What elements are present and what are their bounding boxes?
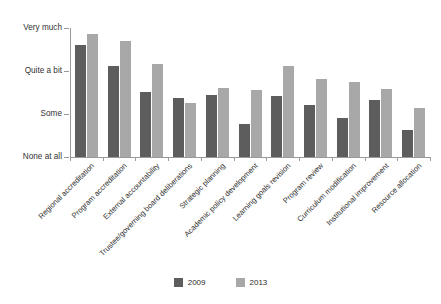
bar-2013-8 [349, 82, 360, 157]
x-axis-tick-mark [103, 157, 104, 161]
legend-label: 2009 [188, 278, 206, 287]
chart-legend: 20092013 [0, 278, 441, 287]
y-axis-tick-mark [64, 28, 69, 29]
bar-2009-4 [206, 95, 217, 157]
bar-2009-9 [369, 100, 380, 157]
legend-swatch-icon [174, 278, 183, 287]
bar-2013-10 [414, 108, 425, 157]
x-axis-tick-mark [397, 157, 398, 161]
bar-2013-4 [218, 88, 229, 157]
bar-2013-3 [185, 103, 196, 157]
legend-item-2013: 2013 [236, 278, 268, 287]
chart-figure: Very muchQuite a bitSomeNone at all Regi… [0, 0, 441, 304]
plot-area [70, 28, 430, 157]
bar-2013-2 [152, 64, 163, 157]
y-axis-tick-mark [64, 114, 69, 115]
x-axis-tick-mark [201, 157, 202, 161]
x-axis-tick-mark [135, 157, 136, 161]
legend-label: 2013 [250, 278, 268, 287]
bar-2009-3 [173, 98, 184, 157]
y-axis-tick-label: Some [41, 110, 62, 118]
bar-2013-6 [283, 66, 294, 157]
bar-2013-7 [316, 79, 327, 157]
x-axis-tick-mark [70, 157, 71, 161]
bar-2009-8 [337, 118, 348, 157]
bar-2013-5 [251, 90, 262, 157]
bar-2013-0 [87, 34, 98, 157]
x-axis-tick-mark [332, 157, 333, 161]
x-axis-tick-mark [299, 157, 300, 161]
x-axis-label-6: Learning goals revision [231, 162, 292, 223]
bar-2009-5 [239, 124, 250, 157]
bar-2009-1 [108, 66, 119, 157]
bar-2009-7 [304, 105, 315, 157]
x-axis-tick-mark [234, 157, 235, 161]
y-axis-tick-mark [64, 157, 69, 158]
x-axis-line [70, 157, 431, 158]
x-axis-tick-mark [430, 157, 431, 161]
bar-2009-10 [402, 130, 413, 157]
y-axis-tick-mark [64, 71, 69, 72]
x-axis-label-0: Regional accreditation [37, 162, 96, 221]
x-axis-label-9: Institutional improvement [325, 162, 390, 227]
bar-2009-0 [75, 45, 86, 157]
bar-2013-9 [381, 89, 392, 157]
y-axis-tick-label: Quite a bit [25, 67, 62, 75]
bar-2009-6 [271, 96, 282, 157]
y-axis-tick-label: Very much [23, 24, 62, 32]
x-axis-tick-mark [365, 157, 366, 161]
x-axis-tick-mark [266, 157, 267, 161]
legend-item-2009: 2009 [174, 278, 206, 287]
y-axis-tick-label: None at all [23, 153, 62, 161]
bar-2009-2 [140, 92, 151, 157]
x-axis-tick-mark [168, 157, 169, 161]
bar-2013-1 [120, 41, 131, 157]
legend-swatch-icon [236, 278, 245, 287]
x-axis-label-8: Curriculum modification [296, 162, 357, 223]
